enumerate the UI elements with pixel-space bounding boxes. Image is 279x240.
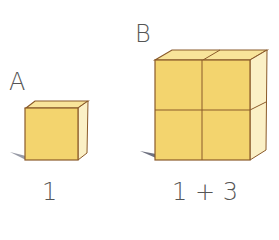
cube-a bbox=[10, 101, 88, 160]
figure-a-caption: 1 bbox=[42, 180, 57, 204]
figure-b-caption: 1 + 3 bbox=[172, 180, 238, 204]
cube-b bbox=[140, 50, 267, 160]
